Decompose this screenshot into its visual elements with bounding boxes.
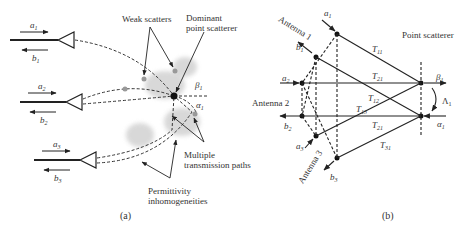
label-b2: b2 (40, 115, 48, 128)
label-point-scatterer: Point scatterer (402, 30, 454, 40)
label-b-a1: a1 (324, 8, 332, 21)
label-weak-scatters: Weak scatters (122, 14, 172, 24)
label-dominant-1: Dominant (186, 13, 222, 23)
label-alpha-1: α1 (196, 100, 204, 113)
label-T11: T11 (372, 44, 383, 57)
caption-b: (b) (382, 210, 394, 221)
weak-scatter-2 (173, 69, 178, 74)
label-T13: T13 (356, 104, 367, 117)
label-b-a3: a3 (296, 141, 304, 154)
label-dominant-2: point scatterer (186, 23, 237, 33)
label-T21-bottom: T21 (372, 120, 383, 133)
label-permittivity-1: Permittivity (148, 186, 191, 196)
caption-a: (a) (120, 210, 131, 221)
label-T21-top: T21 (372, 71, 383, 84)
label-beta1-b: β1 (436, 72, 443, 85)
label-b1: b1 (32, 53, 40, 66)
label-b3: b3 (54, 173, 62, 186)
antenna-2 (20, 94, 82, 110)
label-T12: T12 (368, 93, 379, 106)
label-b-a2: a2 (282, 73, 290, 86)
label-multiple-2: transmission paths (184, 160, 251, 170)
panel-b (280, 20, 446, 170)
label-T31: T31 (380, 140, 391, 153)
weak-scatter-1 (142, 77, 147, 82)
label-alpha1-b: α1 (437, 119, 445, 132)
panel-a (10, 27, 208, 178)
label-antenna-2: Antenna 2 (252, 98, 289, 108)
antenna-3 (34, 152, 96, 168)
label-permittivity-2: inhomogeneities (148, 196, 208, 206)
label-lambda1: Λ1 (442, 96, 452, 109)
dominant-scatterer (171, 93, 178, 100)
diagram-canvas (0, 0, 466, 232)
label-a3: a3 (53, 139, 61, 152)
label-b-b3: b3 (330, 172, 338, 185)
label-a1: a1 (30, 20, 38, 33)
label-multiple-1: Multiple (184, 150, 215, 160)
label-b-b1: b1 (296, 42, 304, 55)
label-a2: a2 (38, 81, 46, 94)
label-b-b2: b2 (284, 121, 292, 134)
weak-scatter-4 (123, 87, 128, 92)
inhomogeneity-blobs (126, 57, 200, 147)
antenna-1 (10, 32, 74, 48)
label-beta-1: β1 (195, 80, 202, 93)
